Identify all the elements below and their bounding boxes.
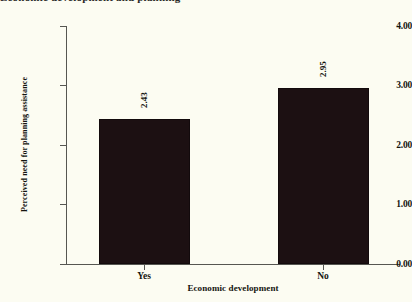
- x-category-label-no: No: [288, 271, 358, 281]
- x-tick-mark-yes: [144, 265, 145, 270]
- y-tick-label-4: 4.00: [356, 21, 412, 31]
- clipped-scan-header: Economic development and planning: [0, 0, 300, 5]
- x-axis-title: Economic development: [66, 283, 400, 293]
- bar-value-no: 2.95: [318, 49, 328, 89]
- x-tick-mark-no: [323, 265, 324, 270]
- y-tick-mark-1: [60, 204, 67, 205]
- bar-chart-figure: Economic development and planning 4.00 3…: [0, 0, 412, 302]
- clipped-scan-header-text: Economic development and planning: [0, 0, 300, 3]
- bar-no: [278, 88, 369, 264]
- y-tick-mark-3: [60, 85, 67, 86]
- y-tick-mark-4: [60, 26, 67, 27]
- bar-yes: [99, 119, 190, 264]
- y-tick-mark-2: [60, 145, 67, 146]
- y-axis-title: Perceived need for planning assistance: [20, 45, 29, 245]
- y-tick-mark-0: [60, 264, 67, 265]
- bar-value-yes: 2.43: [139, 80, 149, 120]
- x-category-label-yes: Yes: [109, 271, 179, 281]
- x-axis-line: [66, 264, 400, 265]
